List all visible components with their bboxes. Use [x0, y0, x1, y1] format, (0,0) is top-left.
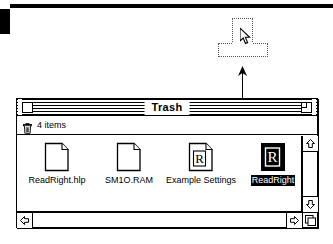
page-title: Trash [145, 100, 190, 115]
desktop: Trash 4 items [0, 0, 333, 244]
horizontal-scrollbar[interactable] [17, 212, 302, 227]
horizontal-scrollbar-track[interactable] [32, 213, 287, 227]
scroll-left-arrow-icon[interactable] [17, 213, 32, 228]
list-item[interactable]: SM1O.RAM [93, 142, 165, 186]
menu-bar-edge [8, 4, 333, 8]
list-item[interactable]: R ReadRight [237, 142, 302, 186]
zoom-box-gap [312, 99, 316, 115]
arrow-pointer-icon [240, 28, 252, 46]
scroll-right-arrow-icon[interactable] [287, 213, 302, 228]
list-item[interactable]: ReadRight.hlp [21, 142, 93, 186]
list-item-label: Example Settings [165, 175, 237, 186]
menu-bar-corner [0, 4, 10, 34]
scroll-up-arrow-icon[interactable] [303, 136, 318, 151]
list-item-label: SM1O.RAM [104, 175, 154, 186]
document-icon[interactable] [44, 142, 70, 172]
trash-can-icon [23, 120, 32, 131]
grow-box[interactable] [302, 212, 317, 227]
application-r-icon[interactable]: R [260, 142, 286, 172]
close-box-button[interactable] [22, 102, 33, 113]
trash-window[interactable]: Trash 4 items [16, 98, 318, 228]
document-r-icon[interactable]: R [188, 142, 214, 172]
list-item-label: ReadRight.hlp [27, 175, 86, 186]
zoom-box-button[interactable] [301, 102, 312, 113]
list-item[interactable]: R Example Settings [165, 142, 237, 186]
document-icon[interactable] [116, 142, 142, 172]
window-title-bar[interactable]: Trash [17, 99, 317, 116]
file-icon-row: ReadRight.hlp SM1O.RAM [21, 142, 302, 186]
list-item-label: ReadRight [251, 175, 296, 186]
scroll-down-arrow-icon[interactable] [303, 197, 318, 212]
window-content-area[interactable]: ReadRight.hlp SM1O.RAM [17, 136, 302, 212]
item-count-label: 4 items [37, 120, 66, 130]
menu-bar-corner-notch [0, 4, 10, 9]
window-info-bar: 4 items [17, 116, 317, 135]
vertical-scrollbar-track[interactable] [303, 151, 317, 197]
vertical-scrollbar[interactable] [302, 136, 317, 212]
svg-text:R: R [195, 151, 204, 166]
svg-text:R: R [267, 149, 277, 165]
